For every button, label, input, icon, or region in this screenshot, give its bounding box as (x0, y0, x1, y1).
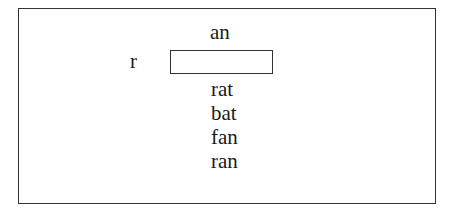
word-family-label: an (210, 20, 230, 44)
choice-rat[interactable]: rat (211, 77, 233, 101)
choice-ran[interactable]: ran (211, 149, 238, 173)
choice-bat[interactable]: bat (211, 101, 237, 125)
onset-letter: r (130, 49, 137, 73)
answer-blank[interactable] (170, 50, 273, 74)
choice-fan[interactable]: fan (211, 125, 238, 149)
